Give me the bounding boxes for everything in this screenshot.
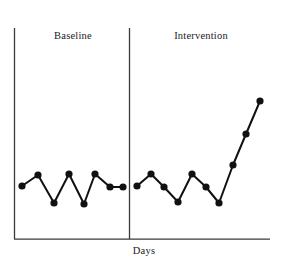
intervention-data-point [133, 182, 140, 189]
intervention-data-point [229, 161, 236, 168]
intervention-data-point [147, 170, 154, 177]
intervention-data-line [137, 101, 260, 203]
baseline-data-point [50, 199, 57, 206]
baseline-data-point [34, 171, 41, 178]
baseline-data-point [106, 183, 113, 190]
phase-label-intervention: Intervention [148, 30, 254, 41]
baseline-data-point [119, 183, 126, 190]
intervention-data-point [242, 130, 249, 137]
phase-label-baseline: Baseline [30, 30, 116, 41]
baseline-data-point [80, 200, 87, 207]
intervention-data-point [188, 170, 195, 177]
intervention-data-point [202, 183, 209, 190]
intervention-data-point [256, 97, 263, 104]
chart-figure: Baseline Intervention Days [0, 0, 285, 261]
intervention-data-point [174, 198, 181, 205]
baseline-data-point [91, 170, 98, 177]
series-intervention [133, 97, 263, 206]
axis-group [14, 28, 270, 239]
x-axis-title: Days [98, 245, 190, 256]
intervention-data-point [160, 183, 167, 190]
series-baseline [18, 170, 126, 207]
baseline-data-point [65, 170, 72, 177]
baseline-data-point [18, 182, 25, 189]
intervention-data-point [215, 199, 222, 206]
